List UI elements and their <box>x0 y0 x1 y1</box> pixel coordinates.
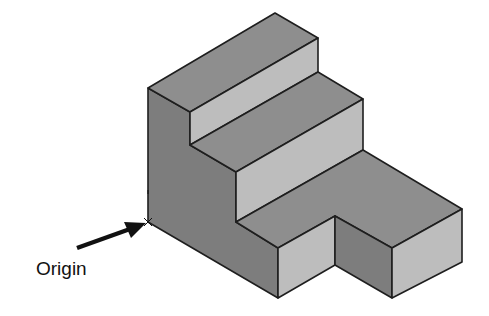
origin-label: Origin <box>36 258 87 280</box>
arrow-icon <box>77 222 146 248</box>
